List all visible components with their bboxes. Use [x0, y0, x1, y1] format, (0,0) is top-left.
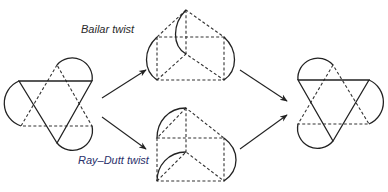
octahedron-end: [298, 58, 384, 148]
arrow-to-bailar: [102, 70, 146, 98]
prism-bailar: [147, 10, 235, 80]
bailar-twist-label: Bailar twist: [81, 23, 134, 35]
prism-ray-dutt: [157, 108, 236, 181]
arrow-from-ray-dutt: [240, 115, 287, 149]
ray-dutt-twist-label: Ray–Dutt twist: [78, 154, 149, 166]
twist-mechanism-diagram: [0, 0, 388, 192]
arrow-from-bailar: [240, 70, 287, 101]
arrow-to-ray-dutt: [102, 117, 146, 149]
octahedron-start: [4, 58, 92, 150]
